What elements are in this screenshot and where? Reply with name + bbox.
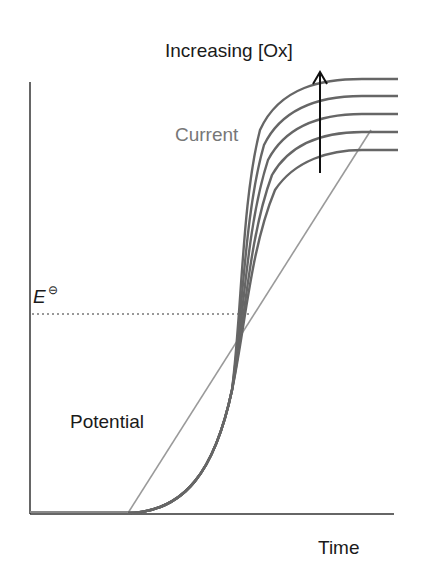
current-curve-2: [128, 132, 398, 513]
standard-potential-symbol: ⊖: [48, 283, 58, 297]
potential-label: Potential: [70, 411, 144, 433]
diagram-title: Increasing [Ox]: [165, 40, 293, 62]
standard-potential-label: E: [33, 286, 46, 308]
current-label: Current: [175, 124, 238, 146]
diagram-canvas: [0, 0, 424, 562]
x-axis-label: Time: [318, 537, 360, 559]
